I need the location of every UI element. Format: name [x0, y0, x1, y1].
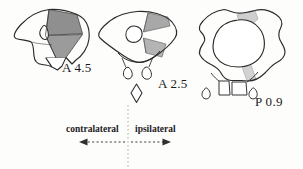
section-p09-nucleus-c — [232, 82, 247, 95]
section-a25-midline-diamond — [131, 84, 142, 103]
axis-label-ipsilateral: ipsilateral — [135, 124, 176, 134]
section-p09-group — [199, 10, 285, 99]
orientation-axis-group — [79, 105, 171, 167]
section-a45-dorsolateral-wedge — [46, 10, 83, 36]
anatomical-sections-svg — [0, 0, 303, 169]
section-p09-nucleus-b — [219, 81, 230, 95]
section-p09-nucleus-a — [202, 88, 210, 99]
section-a45-ventricle — [40, 25, 48, 39]
section-p09-connector-left — [211, 73, 219, 81]
ipsilateral-arrowhead-icon — [163, 139, 172, 146]
section-a45-ventrolateral-wedge — [46, 35, 83, 59]
section-a25-nucleus-right — [142, 67, 151, 79]
section-a25-nucleus-left — [123, 67, 132, 79]
section-p09-inner-ring — [213, 20, 264, 67]
section-label-p09: P 0.9 — [255, 94, 283, 110]
section-label-a25: A 2.5 — [158, 76, 188, 92]
section-a25-ventrolateral-wedge — [144, 38, 167, 57]
contralateral-arrowhead-icon — [79, 139, 88, 146]
figure-canvas: A 4.5 A 2.5 P 0.9 contralateral ipsilate… — [0, 0, 303, 169]
section-label-a45: A 4.5 — [62, 60, 92, 76]
section-a25-ventricle — [126, 26, 142, 42]
axis-label-contralateral: contralateral — [66, 124, 119, 134]
